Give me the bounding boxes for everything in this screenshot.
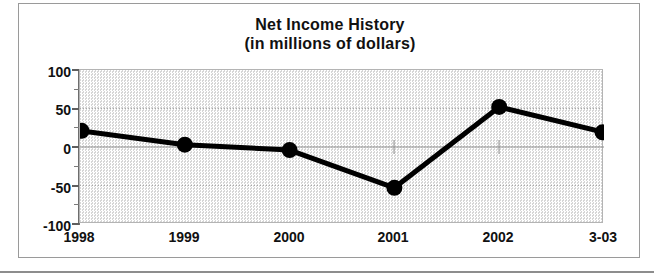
y-major-tick-neg50 [72,185,79,187]
chart-title: Net Income History [19,16,641,35]
chart-subtitle: (in millions of dollars) [19,35,641,54]
plot-area [79,69,603,223]
y-tick-label-0: 0 [23,142,71,156]
data-point-2001 [386,180,402,196]
data-point-1999 [177,137,193,153]
y-major-tick-0 [72,146,79,148]
x-tick-label-1999: 1999 [144,230,224,244]
page-bottom-rule [0,271,654,273]
data-point-1998 [80,123,90,139]
y-tick-label-50: 50 [23,103,71,117]
chart-frame: Net Income History (in millions of dolla… [18,3,640,258]
x-tick-label-3-03: 3-03 [563,230,643,244]
data-point-2000 [282,142,298,158]
y-tick-label-100: 100 [23,65,71,79]
y-major-tick-100 [72,69,79,71]
y-tick-label-neg50: -50 [23,181,71,195]
data-point-3-03 [595,124,605,140]
chart-title-block: Net Income History (in millions of dolla… [19,16,641,54]
x-tick-label-2000: 2000 [249,230,329,244]
x-tick-label-2001: 2001 [353,230,433,244]
x-tick-label-2002: 2002 [458,230,538,244]
y-major-tick-50 [72,108,79,110]
y-major-tick-neg100 [72,223,79,225]
figure-root: Net Income History (in millions of dolla… [0,0,654,276]
data-point-2002 [491,99,507,115]
plot-svg [80,70,604,224]
x-tick-label-1998: 1998 [39,230,119,244]
